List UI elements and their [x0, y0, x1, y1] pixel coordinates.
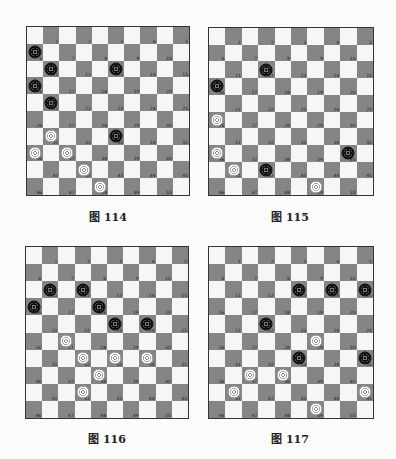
square-30[interactable]: 30 — [156, 333, 172, 350]
light-square[interactable] — [92, 94, 108, 111]
square-14[interactable]: 14 — [139, 281, 155, 298]
black-piece-icon[interactable] — [342, 147, 355, 160]
light-square[interactable] — [357, 78, 373, 95]
light-square[interactable] — [291, 45, 307, 62]
light-square[interactable] — [58, 281, 74, 298]
square-2[interactable]: 2 — [76, 27, 92, 44]
square-17[interactable]: 17 — [242, 298, 258, 315]
square-32[interactable]: 32 — [75, 350, 91, 367]
square-43[interactable]: 43 — [107, 384, 123, 401]
light-square[interactable] — [91, 247, 107, 264]
light-square[interactable] — [140, 178, 156, 195]
square-33[interactable]: 33 — [291, 128, 307, 145]
square-28[interactable]: 28 — [275, 112, 291, 129]
square-43[interactable]: 43 — [291, 162, 307, 179]
square-49[interactable]: 49 — [124, 178, 140, 195]
light-square[interactable] — [140, 77, 156, 94]
square-35[interactable]: 35 — [357, 350, 373, 367]
black-piece-icon[interactable] — [260, 163, 273, 176]
square-47[interactable]: 47 — [58, 401, 74, 418]
square-38[interactable]: 38 — [91, 367, 107, 384]
square-45[interactable]: 45 — [357, 384, 373, 401]
square-47[interactable]: 47 — [242, 401, 258, 418]
square-50[interactable]: 50 — [156, 401, 172, 418]
square-5[interactable]: 5 — [357, 247, 373, 264]
light-square[interactable] — [27, 161, 43, 178]
light-square[interactable] — [76, 145, 92, 162]
light-square[interactable] — [76, 77, 92, 94]
light-square[interactable] — [92, 61, 108, 78]
square-40[interactable]: 40 — [156, 367, 172, 384]
light-square[interactable] — [172, 264, 188, 281]
square-25[interactable]: 25 — [173, 94, 189, 111]
square-3[interactable]: 3 — [107, 247, 123, 264]
square-4[interactable]: 4 — [139, 247, 155, 264]
light-square[interactable] — [172, 367, 188, 384]
square-36[interactable]: 36 — [209, 367, 225, 384]
square-6[interactable]: 6 — [209, 264, 225, 281]
white-piece-icon[interactable] — [276, 369, 289, 382]
light-square[interactable] — [324, 401, 340, 418]
light-square[interactable] — [291, 112, 307, 129]
square-29[interactable]: 29 — [124, 111, 140, 128]
light-square[interactable] — [242, 350, 258, 367]
square-32[interactable]: 32 — [258, 128, 274, 145]
square-40[interactable]: 40 — [340, 367, 356, 384]
black-piece-icon[interactable] — [358, 283, 371, 296]
white-piece-icon[interactable] — [227, 386, 240, 399]
light-square[interactable] — [242, 384, 258, 401]
square-40[interactable]: 40 — [157, 145, 173, 162]
square-38[interactable]: 38 — [92, 145, 108, 162]
light-square[interactable] — [58, 315, 74, 332]
light-square[interactable] — [76, 178, 92, 195]
square-26[interactable]: 26 — [209, 112, 225, 129]
square-9[interactable]: 9 — [124, 44, 140, 61]
light-square[interactable] — [275, 281, 291, 298]
light-square[interactable] — [26, 247, 42, 264]
light-square[interactable] — [291, 78, 307, 95]
square-12[interactable]: 12 — [75, 281, 91, 298]
light-square[interactable] — [258, 45, 274, 62]
light-square[interactable] — [27, 128, 43, 145]
square-6[interactable]: 6 — [27, 44, 43, 61]
square-18[interactable]: 18 — [91, 298, 107, 315]
light-square[interactable] — [340, 28, 356, 45]
square-34[interactable]: 34 — [324, 350, 340, 367]
light-square[interactable] — [26, 350, 42, 367]
square-21[interactable]: 21 — [42, 315, 58, 332]
square-32[interactable]: 32 — [258, 350, 274, 367]
light-square[interactable] — [357, 178, 373, 195]
light-square[interactable] — [291, 401, 307, 418]
light-square[interactable] — [173, 44, 189, 61]
light-square[interactable] — [291, 264, 307, 281]
black-piece-icon[interactable] — [29, 46, 42, 59]
light-square[interactable] — [275, 384, 291, 401]
square-9[interactable]: 9 — [123, 264, 139, 281]
light-square[interactable] — [209, 281, 225, 298]
square-26[interactable]: 26 — [26, 333, 42, 350]
square-18[interactable]: 18 — [275, 298, 291, 315]
light-square[interactable] — [357, 264, 373, 281]
light-square[interactable] — [75, 333, 91, 350]
light-square[interactable] — [209, 162, 225, 179]
light-square[interactable] — [307, 61, 323, 78]
square-7[interactable]: 7 — [58, 264, 74, 281]
light-square[interactable] — [157, 27, 173, 44]
light-square[interactable] — [107, 264, 123, 281]
light-square[interactable] — [42, 333, 58, 350]
square-39[interactable]: 39 — [307, 145, 323, 162]
light-square[interactable] — [58, 384, 74, 401]
square-50[interactable]: 50 — [157, 178, 173, 195]
light-square[interactable] — [26, 315, 42, 332]
square-34[interactable]: 34 — [140, 128, 156, 145]
square-22[interactable]: 22 — [76, 94, 92, 111]
square-41[interactable]: 41 — [225, 384, 241, 401]
square-46[interactable]: 46 — [209, 178, 225, 195]
square-10[interactable]: 10 — [157, 44, 173, 61]
light-square[interactable] — [275, 315, 291, 332]
light-square[interactable] — [156, 315, 172, 332]
square-42[interactable]: 42 — [258, 162, 274, 179]
white-piece-icon[interactable] — [227, 163, 240, 176]
light-square[interactable] — [173, 77, 189, 94]
white-piece-icon[interactable] — [60, 335, 73, 348]
